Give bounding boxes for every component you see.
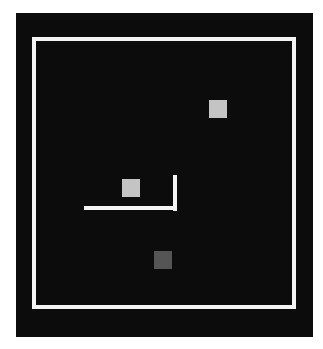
- square-top-right: [209, 100, 227, 118]
- square-middle-left: [122, 179, 140, 197]
- l-wall-horizontal: [84, 206, 177, 210]
- square-bottom: [154, 251, 172, 269]
